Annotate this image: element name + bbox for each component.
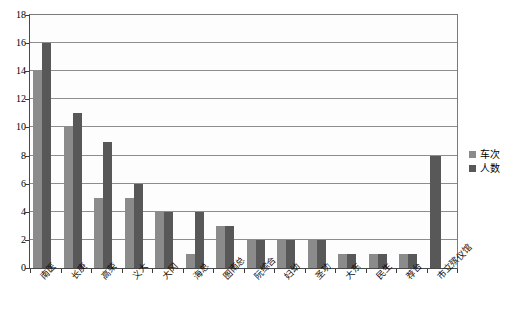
bar-chart: 024681012141618 南医长庚高荣义大大冈海总图南总阮综合妇幼圣功大东… (0, 0, 526, 325)
bar (125, 198, 134, 268)
y-tick-label: 10 (2, 122, 26, 132)
y-tick-label: 14 (2, 66, 26, 76)
bar-group (152, 15, 183, 268)
bar (103, 142, 112, 269)
bar-group (244, 15, 275, 268)
y-tick-mark (25, 43, 29, 44)
bar (42, 43, 51, 268)
y-tick-label: 8 (2, 151, 26, 161)
bars-layer (30, 15, 457, 268)
legend-swatch-icon (469, 151, 476, 158)
y-tick-mark (25, 156, 29, 157)
bar (195, 212, 204, 268)
y-tick-mark (25, 99, 29, 100)
bar (277, 240, 286, 268)
bar (134, 184, 143, 268)
bar (73, 113, 82, 268)
bar (308, 240, 317, 268)
bar (216, 226, 225, 268)
bar (155, 212, 164, 268)
y-tick-label: 4 (2, 207, 26, 217)
y-tick-label: 16 (2, 38, 26, 48)
y-tick-mark (25, 212, 29, 213)
bar-group (335, 15, 366, 268)
bar-group (366, 15, 397, 268)
y-tick-mark (25, 71, 29, 72)
bar-group (274, 15, 305, 268)
bar (430, 156, 441, 268)
bar (33, 71, 42, 268)
y-tick-mark (25, 268, 29, 269)
chart-legend: 车次人数 (466, 145, 524, 178)
bar (64, 127, 73, 268)
y-tick-label: 2 (2, 235, 26, 245)
bar-group (91, 15, 122, 268)
bar-group (305, 15, 336, 268)
bar (369, 254, 378, 268)
x-axis-labels: 南医长庚高荣义大大冈海总图南总阮综合妇幼圣功大东民生荐台市立殡仪馆 (0, 272, 526, 325)
bar (338, 254, 347, 268)
bar (247, 240, 256, 268)
legend-label: 人数 (480, 163, 500, 174)
y-tick-mark (25, 184, 29, 185)
legend-item[interactable]: 车次 (469, 147, 522, 161)
bar-group (183, 15, 214, 268)
y-tick-label: 18 (2, 10, 26, 20)
bar (399, 254, 408, 268)
y-tick-label: 12 (2, 94, 26, 104)
legend-swatch-icon (469, 165, 476, 172)
bar-group (122, 15, 153, 268)
legend-label: 车次 (480, 149, 500, 160)
y-tick-label: 6 (2, 179, 26, 189)
y-tick-mark (25, 240, 29, 241)
bar-group (61, 15, 92, 268)
legend-item[interactable]: 人数 (469, 161, 522, 175)
bar (164, 212, 173, 268)
bar-group (30, 15, 61, 268)
bar (186, 254, 195, 268)
bar (94, 198, 103, 268)
bar-group (396, 15, 427, 268)
bar-group (213, 15, 244, 268)
bar-group (427, 15, 458, 268)
y-tick-mark (25, 127, 29, 128)
y-tick-mark (25, 15, 29, 16)
